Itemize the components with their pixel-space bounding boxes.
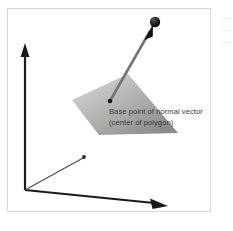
x-axis-line [25,190,154,203]
vector-diagram: Base point of normal vector (center of p… [0,0,233,231]
figure-root: Base point of normal vector (center of p… [0,0,233,231]
normal-vector-base-point-dot [108,99,113,104]
annotation-line-1: Base point of normal vector [109,107,203,116]
margin-mark [222,42,231,43]
y-axis-line [25,158,83,190]
margin-mark [222,30,231,31]
x-axis-arrowhead-icon [150,199,168,210]
normal-vector-tip-sphere [150,17,160,27]
annotation-line-2: (center of polygon) [109,118,174,127]
z-axis-arrowhead-icon [21,43,30,57]
y-axis-endpoint-dot [82,155,86,159]
margin-mark [222,18,231,19]
